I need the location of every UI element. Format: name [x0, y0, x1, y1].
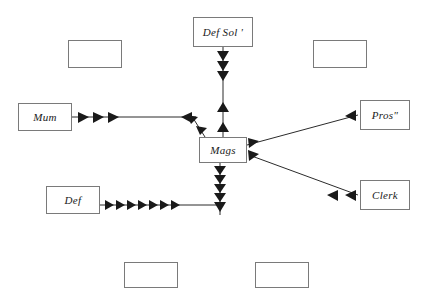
node-label-def-sol: Def Sol ': [203, 26, 244, 38]
arrow-down-col-1: [214, 166, 226, 175]
arrow-right-mum-2: [93, 112, 104, 123]
node-mags[interactable]: Mags: [199, 137, 247, 163]
edge-line-mags-pros: [247, 115, 358, 145]
arrow-right-def-3: [127, 200, 136, 210]
arrow-to-mags-from-pros: [248, 138, 259, 148]
node-label-clerk: Clerk: [372, 189, 398, 201]
arrow-right-def-1: [105, 200, 114, 210]
arrow-to-clerk-2: [327, 190, 338, 201]
arrow-down-2: [217, 61, 229, 71]
arrow-down-col-4: [214, 193, 226, 202]
node-def-sol[interactable]: Def Sol ': [193, 17, 253, 47]
arrow-up-2: [217, 122, 229, 132]
arrow-right-def-5: [149, 200, 158, 210]
arrow-right-mum-3: [108, 112, 119, 123]
arrow-right-def-2: [116, 200, 125, 210]
arrow-to-clerk-1: [345, 190, 356, 201]
arrow-right-def-6: [160, 200, 169, 210]
arrow-down-1: [217, 51, 229, 61]
node-label-pros: Pros": [372, 109, 399, 121]
diagram-canvas: Def Sol ' Mum Pros" Mags Clerk Def: [0, 0, 427, 304]
arrow-to-pros: [345, 110, 356, 121]
node-label-def: Def: [65, 194, 82, 206]
node-pros[interactable]: Pros": [360, 100, 410, 130]
arrow-down-3: [217, 71, 229, 81]
node-mum[interactable]: Mum: [18, 103, 72, 131]
arrow-down-col-2: [214, 175, 226, 184]
edge-line-mags-clerk: [249, 155, 358, 195]
arrow-down-col-3: [214, 184, 226, 193]
node-empty-bottom-right[interactable]: [255, 262, 309, 288]
arrow-to-mags-from-clerk: [248, 150, 259, 161]
node-empty-top-left[interactable]: [68, 40, 122, 68]
arrow-upleft-1: [196, 126, 207, 135]
node-empty-bottom-left[interactable]: [124, 262, 178, 288]
node-label-mum: Mum: [33, 111, 57, 123]
arrow-up-1: [217, 102, 229, 112]
node-empty-top-right[interactable]: [313, 40, 367, 68]
arrow-right-mum-1: [78, 112, 89, 123]
node-label-mags: Mags: [210, 144, 236, 156]
arrow-right-def-7: [171, 200, 180, 210]
node-def[interactable]: Def: [46, 186, 100, 214]
arrow-down-col-5: [214, 202, 226, 212]
arrow-right-def-4: [138, 200, 147, 210]
node-clerk[interactable]: Clerk: [360, 180, 410, 210]
